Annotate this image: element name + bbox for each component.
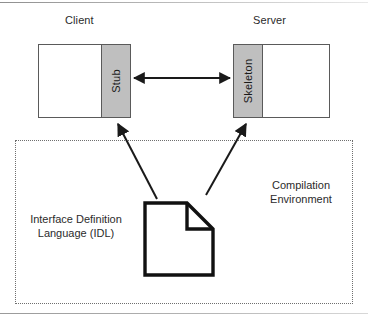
- client-box: [38, 44, 102, 118]
- idl-label: Interface Definition Language (IDL): [28, 212, 124, 240]
- diagram-canvas: Client Server Stub Skeleton Interface De…: [0, 0, 368, 325]
- bottom-divider-rule: [0, 313, 368, 314]
- server-box: [262, 44, 330, 118]
- client-title: Client: [65, 14, 94, 26]
- idl-label-line1: Interface Definition: [30, 213, 122, 225]
- compilation-label-line2: Environment: [270, 193, 332, 205]
- compilation-environment-label: Compilation Environment: [262, 178, 340, 206]
- top-divider-rule: [0, 2, 368, 3]
- skeleton-label: Skeleton: [242, 59, 254, 103]
- stub-label: Stub: [110, 69, 122, 92]
- server-title: Server: [253, 14, 286, 26]
- skeleton-band: Skeleton: [233, 44, 263, 118]
- stub-band: Stub: [101, 44, 131, 118]
- idl-label-line2: Language (IDL): [38, 227, 114, 239]
- compilation-label-line1: Compilation: [272, 179, 330, 191]
